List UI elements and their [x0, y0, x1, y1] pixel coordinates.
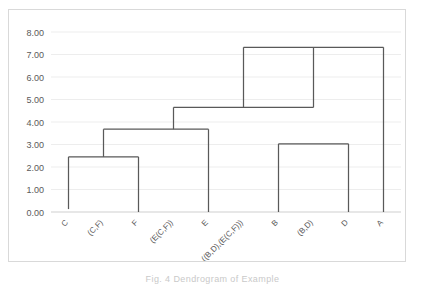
x-axis-tick-label: E	[200, 218, 210, 228]
y-axis-tick-label: 4.00	[26, 118, 44, 128]
x-axis-tick-label: D	[339, 218, 350, 229]
x-axis-tick-label: C	[59, 218, 70, 229]
dendrogram-plot: 0.001.002.003.004.005.006.007.008.00 C(C…	[9, 10, 405, 261]
y-axis-tick-label: 1.00	[26, 185, 44, 195]
x-axis-tick-label: A	[375, 218, 386, 229]
y-axis-tick-label: 2.00	[26, 163, 44, 173]
dendrogram-link-group	[69, 47, 384, 212]
x-axis-tick-labels: C(C,F)F(E(C,F))E((B,D),(E(C,F)))B(B,D)DA	[59, 218, 385, 261]
x-axis-tick-label: (C,F)	[86, 218, 105, 237]
y-axis-tick-label: 6.00	[26, 73, 44, 83]
y-axis-tick-label: 8.00	[26, 28, 44, 38]
figure-caption: Fig. 4 Dendrogram of Example	[0, 274, 425, 288]
y-axis-tick-label: 7.00	[26, 50, 44, 60]
x-axis-tick-label: (B,D)	[295, 218, 315, 238]
x-axis-tick-label: B	[270, 218, 280, 228]
chart-frame: 0.001.002.003.004.005.006.007.008.00 C(C…	[8, 9, 406, 262]
dendrogram-figure: 0.001.002.003.004.005.006.007.008.00 C(C…	[0, 0, 425, 288]
y-axis-tick-label: 5.00	[26, 95, 44, 105]
y-axis-tick-label: 3.00	[26, 140, 44, 150]
x-axis-tick-label: F	[130, 218, 140, 228]
y-axis-tick-labels: 0.001.002.003.004.005.006.007.008.00	[26, 28, 44, 218]
x-axis-tick-label: (E(C,F))	[148, 218, 175, 245]
y-axis-tick-label: 0.00	[26, 208, 44, 218]
